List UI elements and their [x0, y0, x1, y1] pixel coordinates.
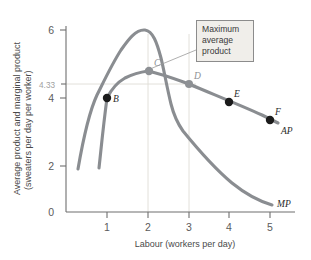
data-point-label-b: B — [113, 94, 119, 104]
x-tick-label-3: 3 — [186, 221, 192, 233]
y-tick-label-4: 4 — [48, 92, 54, 104]
x-tick-label-5: 5 — [267, 221, 273, 233]
data-point-label-d: D — [193, 71, 201, 81]
y-tick-label-2: 2 — [48, 160, 54, 172]
y-axis-title-line2: (sweaters per day per worker) — [23, 70, 33, 190]
annotation-max-average-product: Maximum average product — [196, 20, 254, 62]
y-axis-title-line1: Average product and marginal product — [12, 42, 22, 195]
annotation-line-2: average — [202, 35, 248, 46]
data-point-b — [103, 94, 111, 102]
data-point-f — [266, 116, 274, 124]
x-tick-label-2: 2 — [145, 221, 151, 233]
curve-label-ap: AP — [280, 126, 293, 136]
data-point-c — [145, 67, 153, 75]
curve-label-mp: MP — [276, 199, 291, 209]
x-axis-title: Labour (workers per day) — [135, 239, 236, 249]
y-tick-label-433: 4.33 — [39, 81, 55, 90]
annotation-line-1: Maximum — [202, 24, 248, 35]
y-tick-label-6: 6 — [48, 24, 54, 36]
chart-plot-area: 6 4 2 0 4.33 1 2 3 4 5 B C D E F AP MP L… — [0, 0, 311, 260]
data-point-label-e: E — [233, 89, 240, 99]
data-point-label-c: C — [154, 58, 161, 68]
annotation-line-3: product — [202, 46, 248, 57]
x-tick-label-4: 4 — [226, 221, 232, 233]
y-tick-label-0: 0 — [48, 206, 54, 218]
data-point-e — [225, 98, 233, 106]
x-tick-label-1: 1 — [104, 221, 110, 233]
chart-container: 6 4 2 0 4.33 1 2 3 4 5 B C D E F AP MP L… — [0, 0, 311, 260]
data-point-d — [185, 80, 193, 88]
data-point-label-f: F — [274, 107, 281, 117]
